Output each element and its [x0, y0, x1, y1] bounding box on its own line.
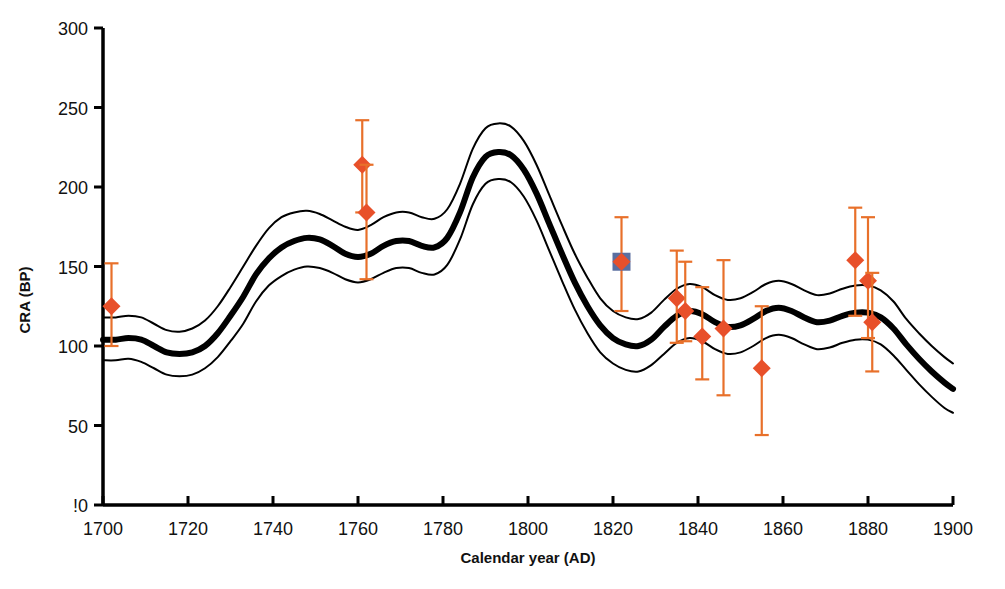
data-point [753, 306, 771, 435]
x-axis-tick-label: 1780 [423, 519, 463, 539]
x-axis-tick-label: 1700 [83, 519, 123, 539]
x-axis-tick-label: 1800 [508, 519, 548, 539]
diamond-marker [846, 251, 864, 269]
x-axis-tick-label: 1840 [678, 519, 718, 539]
calibration-curve-lower [103, 179, 953, 413]
x-axis-tick-label: 1860 [763, 519, 803, 539]
data-point [358, 165, 376, 279]
data-point [846, 208, 864, 316]
y-axis-tick-label: 100 [58, 337, 88, 357]
x-axis-tick-label: 1880 [848, 519, 888, 539]
data-point [613, 217, 631, 311]
y-axis-tick-label: 250 [58, 99, 88, 119]
y-axis-tick-label: 200 [58, 178, 88, 198]
diamond-marker [103, 297, 121, 315]
calibration-curves [103, 123, 953, 412]
chart-figure: !050100150200250300 17001720174017601780… [0, 0, 1005, 589]
y-axis-tick-label: 50 [68, 417, 88, 437]
diamond-marker [753, 359, 771, 377]
x-axis-tick-label: 1720 [168, 519, 208, 539]
calibration-curve-mean [103, 152, 953, 389]
data-point [353, 120, 371, 212]
data-points-with-errorbars [103, 120, 882, 435]
y-axis-tick-label: 150 [58, 258, 88, 278]
chart-axes [94, 28, 953, 505]
y-axis-title: CRA (BP) [16, 267, 33, 334]
chart-canvas: !050100150200250300 17001720174017601780… [0, 0, 1005, 589]
diamond-marker [693, 327, 711, 345]
x-axis-tick-labels: 1700172017401760178018001820184018601880… [83, 519, 973, 539]
data-point [668, 251, 686, 343]
data-point [103, 263, 121, 346]
data-point [715, 260, 733, 395]
diamond-marker [358, 203, 376, 221]
data-point [693, 287, 711, 379]
y-axis-tick-labels: !050100150200250300 [58, 19, 88, 516]
calibration-curve-upper [103, 123, 953, 363]
x-axis-tick-label: 1760 [338, 519, 378, 539]
y-axis-tick-label: !0 [73, 496, 88, 516]
x-axis-title: Calendar year (AD) [460, 549, 595, 566]
x-axis-tick-label: 1900 [933, 519, 973, 539]
x-axis-tick-label: 1820 [593, 519, 633, 539]
y-axis-tick-label: 300 [58, 19, 88, 39]
x-axis-tick-label: 1740 [253, 519, 293, 539]
